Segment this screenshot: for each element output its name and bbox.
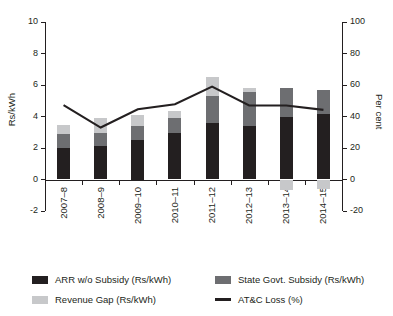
left-axis-tick-label: 2: [33, 143, 38, 152]
left-axis-tick-label: 8: [33, 49, 38, 58]
legend-item: ARR w/o Subsidy (Rs/kWh): [32, 274, 171, 285]
atc-loss-line-path: [64, 87, 324, 128]
right-axis-tick: [343, 148, 347, 149]
left-axis-tick-label: 0: [33, 175, 38, 184]
right-axis-tick-label: 80: [350, 49, 360, 58]
x-axis-tick: [342, 181, 343, 185]
legend-color-swatch-icon: [32, 276, 48, 284]
right-axis-tick: [343, 53, 347, 54]
right-axis-tick: [343, 85, 347, 86]
left-axis-tick-label: 4: [33, 112, 38, 121]
left-axis-tick-label: 6: [33, 80, 38, 89]
atc-loss-line-series: [45, 22, 342, 211]
right-axis-title: Per cent: [374, 94, 385, 129]
right-axis-tick-label: 60: [350, 80, 360, 89]
right-axis-tick-label: -20: [350, 206, 363, 215]
legend-item-label: Revenue Gap (Rs/kWh): [55, 294, 156, 305]
left-axis-tick-label: -2: [30, 206, 38, 215]
legend-color-swatch-icon: [215, 276, 231, 284]
legend-item-label: State Govt. Subsidy (Rs/kWh): [238, 274, 364, 285]
legend-line-swatch-icon: [215, 298, 231, 300]
legend-item: State Govt. Subsidy (Rs/kWh): [215, 274, 364, 285]
legend-item: AT&C Loss (%): [215, 294, 303, 305]
legend-color-swatch-icon: [32, 296, 48, 304]
stacked-bar-line-chart: Rs/kWh Per cent 1086420-2 100806040200-2…: [0, 0, 393, 316]
right-axis-tick: [343, 22, 347, 23]
right-axis-tick-label: 0: [350, 175, 355, 184]
right-axis-tick: [343, 179, 347, 180]
right-axis-tick-label: 100: [350, 17, 365, 26]
left-axis-title: Rs/kWh: [6, 93, 17, 126]
legend-item-label: AT&C Loss (%): [238, 294, 303, 305]
right-axis-tick-label: 40: [350, 112, 360, 121]
chart-legend: ARR w/o Subsidy (Rs/kWh)State Govt. Subs…: [32, 274, 372, 312]
right-axis-tick: [343, 211, 347, 212]
right-axis-tick: [343, 116, 347, 117]
left-axis-tick-label: 10: [28, 17, 38, 26]
legend-item: Revenue Gap (Rs/kWh): [32, 294, 156, 305]
right-axis-tick-label: 20: [350, 143, 360, 152]
legend-item-label: ARR w/o Subsidy (Rs/kWh): [55, 274, 171, 285]
